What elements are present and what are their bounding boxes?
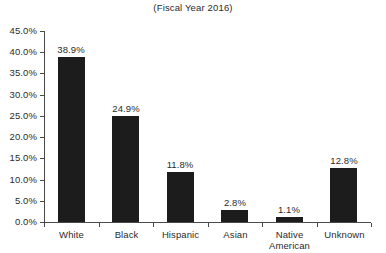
x-axis-tick	[317, 223, 318, 227]
y-axis-tick	[40, 158, 44, 159]
y-axis-line	[44, 31, 45, 222]
category-label-line: Black	[99, 229, 154, 240]
x-axis-category-label: Black	[99, 229, 154, 240]
y-axis-label: 5.0%	[0, 196, 37, 206]
y-axis-label: 10.0%	[0, 175, 37, 185]
bar-value-label: 1.1%	[259, 204, 319, 215]
x-axis-category-label: Asian	[208, 229, 263, 240]
bar	[112, 116, 139, 222]
bar-value-label: 12.8%	[314, 155, 374, 166]
y-axis-tick	[40, 137, 44, 138]
y-axis-label: 20.0%	[0, 132, 37, 142]
y-axis-tick	[40, 116, 44, 117]
category-label-line: Asian	[208, 229, 263, 240]
bar-value-label: 38.9%	[41, 44, 101, 55]
x-axis-tick	[99, 223, 100, 227]
y-axis-tick	[40, 31, 44, 32]
y-axis-label: 35.0%	[0, 68, 37, 78]
category-label-line: Native	[262, 229, 317, 240]
bar	[221, 210, 248, 222]
category-label-line: Unknown	[317, 229, 372, 240]
y-axis-tick	[40, 95, 44, 96]
bar-value-label: 2.8%	[205, 197, 265, 208]
bar-value-label: 24.9%	[96, 103, 156, 114]
x-axis-category-label: White	[44, 229, 99, 240]
y-axis-label: 15.0%	[0, 153, 37, 163]
x-axis-category-label: Unknown	[317, 229, 372, 240]
y-axis-label: 0.0%	[0, 217, 37, 227]
y-axis-label: 25.0%	[0, 111, 37, 121]
y-axis-tick	[40, 180, 44, 181]
category-label-line: Hispanic	[153, 229, 208, 240]
x-axis-tick	[371, 223, 372, 227]
bar-value-label: 11.8%	[150, 159, 210, 170]
bar	[276, 217, 303, 222]
y-axis-label: 40.0%	[0, 47, 37, 57]
x-axis-tick	[153, 223, 154, 227]
chart-title: (Fiscal Year 2016)	[0, 2, 386, 13]
x-axis-tick	[208, 223, 209, 227]
x-axis-tick	[44, 223, 45, 227]
x-axis-category-label: NativeAmerican	[262, 229, 317, 251]
y-axis-label: 45.0%	[0, 26, 37, 36]
bar	[330, 168, 357, 222]
y-axis-tick	[40, 73, 44, 74]
y-axis-tick	[40, 201, 44, 202]
x-axis-tick	[262, 223, 263, 227]
category-label-line: American	[262, 240, 317, 251]
bar-chart: (Fiscal Year 2016) 0.0%5.0%10.0%15.0%20.…	[0, 0, 386, 253]
bar	[167, 172, 194, 222]
y-axis-label: 30.0%	[0, 90, 37, 100]
bar	[58, 57, 85, 222]
x-axis-category-label: Hispanic	[153, 229, 208, 240]
category-label-line: White	[44, 229, 99, 240]
